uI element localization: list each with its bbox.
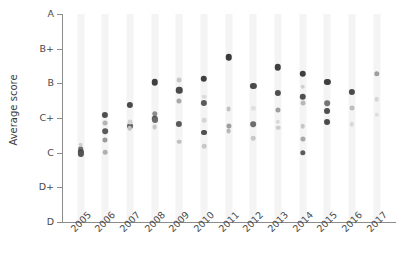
data-point	[103, 121, 108, 126]
data-point	[300, 101, 305, 106]
y-axis-title: Average score	[9, 50, 19, 170]
data-point	[250, 121, 256, 127]
y-tick-label: B+	[14, 44, 54, 54]
y-tick-mark	[57, 49, 62, 50]
y-tick-label: D	[14, 217, 54, 227]
y-tick-mark	[57, 14, 62, 15]
scatter-chart: DD+CC+BB+A 20052006200720082009201020112…	[0, 0, 402, 260]
gridline	[274, 14, 281, 222]
data-point	[201, 130, 207, 136]
gridline	[126, 14, 133, 222]
data-point	[102, 128, 108, 134]
y-tick-label: B	[14, 79, 54, 89]
gridline	[324, 14, 331, 222]
y-tick-label: D+	[14, 183, 54, 193]
y-tick-mark	[57, 83, 62, 84]
gridline	[349, 14, 356, 222]
data-point	[226, 107, 231, 112]
data-point	[300, 124, 305, 129]
data-point	[276, 125, 281, 130]
data-point	[78, 142, 83, 147]
data-point	[177, 77, 182, 82]
y-tick-mark	[57, 222, 62, 223]
y-tick-label: C+	[14, 113, 54, 123]
data-point	[128, 126, 133, 131]
data-point	[152, 117, 158, 123]
y-tick-label: C	[14, 148, 54, 158]
data-point	[226, 129, 231, 134]
plot-area	[62, 14, 394, 222]
data-point	[202, 118, 207, 123]
data-point	[325, 101, 331, 107]
y-tick-label: A	[14, 9, 54, 19]
data-point	[127, 120, 132, 125]
gridline	[373, 14, 380, 222]
data-point	[374, 97, 379, 102]
y-tick-mark	[57, 153, 62, 154]
data-point	[324, 108, 330, 114]
gridline	[225, 14, 232, 222]
data-point	[202, 144, 207, 149]
y-tick-mark	[57, 187, 62, 188]
gridline	[299, 14, 306, 222]
gridline	[176, 14, 183, 222]
data-point	[300, 85, 305, 90]
gridline	[250, 14, 257, 222]
y-axis-line	[62, 14, 63, 223]
data-point	[251, 136, 256, 141]
data-point	[202, 94, 207, 99]
y-tick-mark	[57, 118, 62, 119]
data-point	[152, 124, 157, 129]
data-point	[350, 106, 355, 111]
data-point	[103, 150, 108, 155]
data-point	[324, 119, 330, 125]
gridline	[77, 14, 84, 222]
data-point	[177, 139, 182, 144]
